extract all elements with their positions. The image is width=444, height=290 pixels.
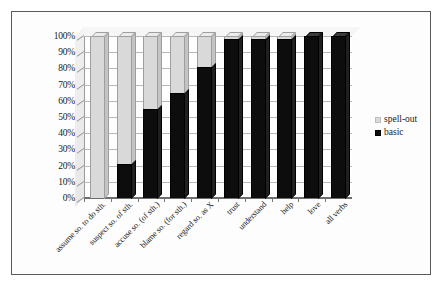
segment-side-face	[318, 32, 323, 199]
bar-10	[331, 36, 346, 198]
segment-basic	[277, 39, 292, 198]
segment-spell-out	[143, 36, 158, 109]
segment-basic	[331, 36, 346, 198]
chart-figure: 100%90%80%70%60%50%40%30%20%10%0% assume…	[0, 0, 444, 290]
segment-spell-out	[170, 36, 185, 93]
y-tick-label-80: 80%	[58, 63, 75, 73]
legend-label-spell-out: spell-out	[384, 113, 417, 126]
segment-side-face	[184, 32, 189, 94]
segment-basic	[117, 164, 132, 198]
segment-basic	[143, 109, 158, 198]
bar-9	[304, 36, 319, 198]
spell-out-swatch	[375, 117, 381, 123]
segment-side-face	[131, 160, 136, 199]
segment-spell-out	[90, 36, 105, 198]
y-tick-label-20: 20%	[58, 160, 75, 170]
bar-3	[143, 36, 158, 198]
segment-side-face	[184, 89, 189, 199]
segment-side-face	[131, 32, 136, 165]
bar-5	[197, 36, 212, 198]
y-tick-label-10: 10%	[58, 177, 75, 187]
bar-1	[90, 36, 105, 198]
segment-side-face	[238, 35, 243, 199]
segment-basic	[224, 39, 239, 198]
x-label-10: all verbs	[323, 200, 349, 226]
bar-2	[117, 36, 132, 198]
segment-spell-out	[197, 36, 212, 67]
x-label-7: understand	[237, 200, 269, 232]
legend-item-basic: basic	[375, 126, 439, 139]
bar-6	[224, 36, 239, 198]
y-tick-label-30: 30%	[58, 144, 75, 154]
segment-side-face	[104, 32, 109, 199]
x-label-8: help	[279, 200, 295, 216]
segment-side-face	[345, 32, 350, 199]
x-label-6: trust	[225, 200, 242, 217]
chart-frame: 100%90%80%70%60%50%40%30%20%10%0% assume…	[11, 11, 431, 275]
legend-item-spell-out: spell-out	[375, 113, 439, 126]
y-tick-label-90: 90%	[58, 47, 75, 57]
x-label-9: love	[306, 200, 322, 216]
segment-basic	[197, 67, 212, 198]
segment-basic	[251, 39, 266, 198]
y-tick-label-40: 40%	[58, 128, 75, 138]
bar-7	[251, 36, 266, 198]
bar-series-group	[84, 36, 352, 198]
plot-area: 100%90%80%70%60%50%40%30%20%10%0%	[84, 36, 352, 198]
basic-swatch	[375, 130, 381, 136]
legend-label-basic: basic	[384, 126, 404, 139]
x-axis-category-labels: assume so. to do sth.suspect so. of sth.…	[84, 200, 374, 280]
segment-basic	[170, 93, 185, 198]
y-tick-label-0: 0%	[63, 193, 75, 203]
segment-spell-out	[117, 36, 132, 164]
bar-4	[170, 36, 185, 198]
bar-8	[277, 36, 292, 198]
y-tick-label-100: 100%	[54, 31, 75, 41]
segment-side-face	[265, 35, 270, 199]
y-tick-label-60: 60%	[58, 96, 75, 106]
segment-side-face	[157, 32, 162, 110]
segment-side-face	[211, 63, 216, 199]
segment-side-face	[291, 35, 296, 199]
segment-basic	[304, 36, 319, 198]
y-tick-label-70: 70%	[58, 79, 75, 89]
y-tick-label-50: 50%	[58, 112, 75, 122]
chart-legend: spell-out basic	[375, 113, 439, 139]
segment-side-face	[157, 105, 162, 199]
